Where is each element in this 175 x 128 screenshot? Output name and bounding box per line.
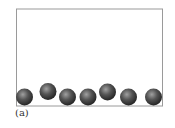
ball-4 bbox=[80, 89, 97, 106]
ball-3 bbox=[59, 89, 76, 106]
ball-5 bbox=[99, 84, 116, 101]
ball-7 bbox=[145, 89, 162, 106]
balls-group bbox=[16, 83, 162, 106]
ball-6 bbox=[120, 89, 137, 106]
ball-2 bbox=[40, 83, 57, 100]
ball-1 bbox=[16, 89, 33, 106]
figure-caption: (a) bbox=[15, 107, 29, 118]
